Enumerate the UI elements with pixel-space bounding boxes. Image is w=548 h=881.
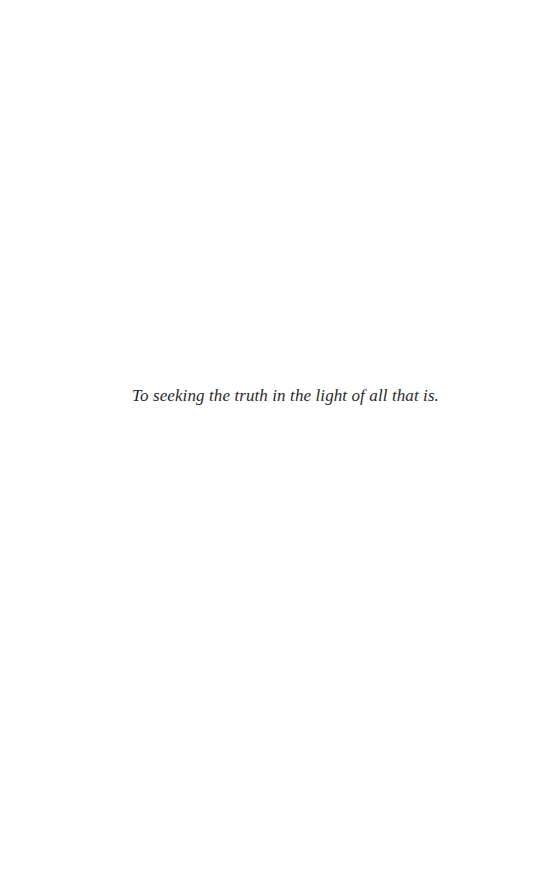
dedication-page: To seeking the truth in the light of all… [0,0,548,881]
dedication-text: To seeking the truth in the light of all… [132,386,439,406]
